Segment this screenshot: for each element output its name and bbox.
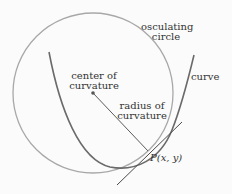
osculating-circle-diagram: osculating circle curve center of curvat…: [0, 0, 232, 194]
diagram-graphics: [0, 0, 232, 194]
label-center-of-curvature: center of curvature: [65, 71, 123, 91]
label-curvature-2: curvature: [117, 111, 167, 121]
label-curvature-1: curvature: [65, 81, 123, 91]
center-point: [91, 91, 95, 95]
label-radius-of-curvature: radius of curvature: [117, 101, 167, 121]
label-point-p: P(x, y): [150, 153, 182, 163]
label-circle: circle: [141, 32, 191, 42]
label-osculating-circle: osculating circle: [141, 22, 191, 42]
label-curve: curve: [191, 72, 219, 82]
